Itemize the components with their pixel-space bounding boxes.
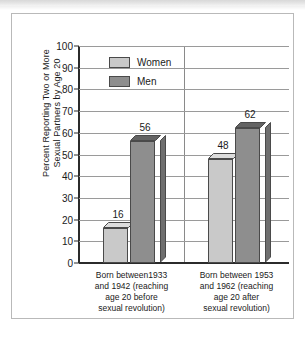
plot-inner: 0102030405060708090100 16564862 WomenMen — [79, 46, 289, 263]
category-label-line: sexual revolution) — [186, 303, 287, 314]
plot-area: 0102030405060708090100 16564862 WomenMen — [79, 46, 289, 263]
category-label-line: sexual revolution) — [81, 303, 182, 314]
category-label-1: Born between1933and 1942 (reachingage 20… — [79, 270, 184, 314]
bar-value-label: 56 — [139, 122, 150, 133]
category-label-line: age 20 before — [81, 292, 182, 303]
category-label-line: age 20 after — [186, 292, 287, 303]
y-tick-label: 80 — [62, 84, 73, 95]
bar-front-face — [103, 228, 128, 263]
y-tick-mark — [74, 132, 79, 133]
y-tick-mark — [74, 89, 79, 90]
y-tick-mark — [74, 197, 79, 198]
y-tick-label: 10 — [62, 236, 73, 247]
legend-label: Men — [137, 76, 156, 87]
y-tick-mark — [74, 176, 79, 177]
y-axis-title: Percent Reporting Two or More Sexual Par… — [41, 8, 63, 218]
legend-item-women[interactable]: Women — [109, 54, 171, 71]
bar-value-label: 48 — [217, 140, 228, 151]
y-tick-mark — [74, 219, 79, 220]
legend-swatch-men — [109, 76, 130, 87]
category-label-line: and 1942 (reaching — [81, 281, 182, 292]
bar-value-label: 16 — [112, 209, 123, 220]
bar-front-face — [130, 141, 155, 263]
y-tick-mark — [74, 241, 79, 242]
y-tick-mark — [74, 111, 79, 112]
y-tick-label: 70 — [62, 106, 73, 117]
gridline — [79, 46, 289, 47]
chart-figure-card: Percent Reporting Two or More Sexual Par… — [11, 13, 294, 319]
bar-front-face — [208, 159, 233, 263]
legend-swatch-women — [109, 57, 130, 68]
y-tick-label: 30 — [62, 192, 73, 203]
category-label-line: Born between 1953 — [186, 270, 287, 281]
y-tick-label: 40 — [62, 171, 73, 182]
category-label-line: Born between1933 — [81, 270, 182, 281]
bar-value-label: 62 — [244, 109, 255, 120]
y-axis-title-line-1: Percent Reporting Two or More — [41, 8, 52, 218]
y-tick-label: 20 — [62, 214, 73, 225]
y-tick-mark — [74, 46, 79, 47]
bar-men-group-1 — [130, 141, 155, 263]
y-tick-label: 60 — [62, 127, 73, 138]
y-tick-label: 100 — [56, 41, 73, 52]
y-tick-label: 0 — [67, 258, 73, 269]
bar-men-group-2 — [235, 128, 260, 263]
bar-front-face — [235, 128, 260, 263]
y-tick-mark — [74, 67, 79, 68]
y-tick-label: 50 — [62, 149, 73, 160]
x-axis-category-labels: Born between1933and 1942 (reachingage 20… — [79, 270, 289, 314]
legend-item-men[interactable]: Men — [109, 73, 171, 90]
bar-women-group-2 — [208, 159, 233, 263]
y-tick-mark — [74, 154, 79, 155]
chart-legend: WomenMen — [109, 54, 171, 92]
category-label-2: Born between 1953and 1962 (reachingage 2… — [184, 270, 289, 314]
y-tick-mark — [74, 263, 79, 264]
legend-label: Women — [137, 57, 171, 68]
y-tick-label: 90 — [62, 62, 73, 73]
gridline — [79, 111, 289, 112]
bar-women-group-1 — [103, 228, 128, 263]
category-label-line: and 1962 (reaching — [186, 281, 287, 292]
